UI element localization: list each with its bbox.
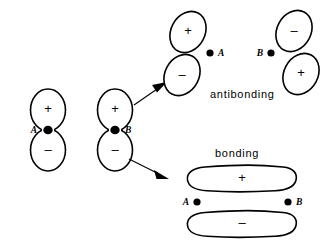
antibonding-b-node-dot xyxy=(267,49,274,56)
orbital-b-top-sign: + xyxy=(111,101,119,116)
antibonding-a-atom-label: A xyxy=(217,48,224,58)
bonding-caption: bonding xyxy=(215,147,259,159)
orbital-b-atom-label: B xyxy=(124,125,131,135)
antibonding-a-lower-sign: – xyxy=(178,67,186,82)
antibonding-orbital-b: – + B xyxy=(256,4,326,101)
antibonding-a-node-dot xyxy=(206,49,213,56)
bonding-node-dot-a xyxy=(193,198,200,205)
bonding-lower-sign: – xyxy=(238,215,246,230)
orbital-a-node-dot xyxy=(44,127,51,133)
bonding-molecular-orbital: + – A B xyxy=(182,165,303,237)
atomic-orbital-a: + – A xyxy=(30,89,66,171)
atomic-orbital-b: + – B xyxy=(98,89,133,171)
orbital-a-bottom-sign: – xyxy=(44,142,52,157)
orbital-overlap-figure: + – A + – B + – xyxy=(0,0,332,243)
antibonding-b-lower-sign: + xyxy=(297,65,305,80)
antibonding-b-atom-label: B xyxy=(256,48,263,58)
bonding-node-dot-b xyxy=(284,198,291,205)
arrow-to-bonding xyxy=(129,159,169,179)
bonding-atom-label-b: B xyxy=(295,197,302,207)
antibonding-a-upper-sign: + xyxy=(184,23,192,38)
orbital-b-bottom-sign: – xyxy=(111,142,119,157)
orbital-b-node-dot xyxy=(111,127,118,133)
bonding-upper-sign: + xyxy=(238,170,246,185)
bonding-atom-label-a: A xyxy=(182,197,189,207)
antibonding-b-upper-sign: – xyxy=(290,23,298,38)
figure-canvas: + – A + – B + – xyxy=(0,0,332,243)
arrow-to-bonding-head xyxy=(154,170,169,179)
orbital-a-top-sign: + xyxy=(44,101,52,116)
antibonding-caption: antibonding xyxy=(210,88,275,100)
arrow-to-antibonding xyxy=(134,82,167,105)
orbital-a-atom-label: A xyxy=(30,125,37,135)
